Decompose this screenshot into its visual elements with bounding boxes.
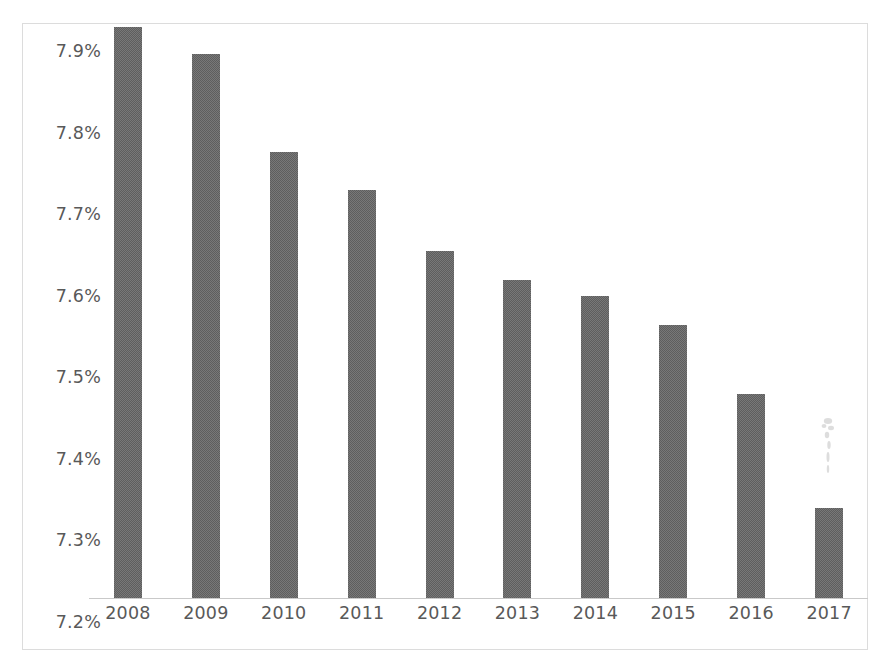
bar[interactable] xyxy=(192,54,220,598)
chart-frame: 7.9% 7.8% 7.7% 7.6% 7.5% 7.4% 7.3% 7.2% xyxy=(22,23,868,650)
chart-screenshot: 7.9% 7.8% 7.7% 7.6% 7.5% 7.4% 7.3% 7.2% xyxy=(0,0,888,669)
bar[interactable] xyxy=(270,152,298,598)
bar[interactable] xyxy=(581,296,609,598)
x-axis-labels: 2008 2009 2010 2011 2012 2013 2014 2015 … xyxy=(89,603,868,637)
x-axis-tick-label: 2009 xyxy=(183,603,228,623)
x-axis-tick-label: 2011 xyxy=(339,603,384,623)
bar[interactable] xyxy=(659,325,687,598)
x-axis-tick-label: 2010 xyxy=(261,603,306,623)
x-axis-tick-label: 2012 xyxy=(417,603,462,623)
x-axis-tick-label: 2014 xyxy=(573,603,618,623)
bar[interactable] xyxy=(815,508,843,598)
x-axis-tick-label: 2016 xyxy=(728,603,773,623)
plot-area xyxy=(89,28,868,599)
bar[interactable] xyxy=(426,251,454,598)
bar[interactable] xyxy=(503,280,531,598)
x-axis-tick-label: 2015 xyxy=(651,603,696,623)
x-axis-tick-label: 2008 xyxy=(105,603,150,623)
x-axis-line xyxy=(89,598,868,599)
bar-series xyxy=(89,28,868,599)
x-axis-tick-label: 2013 xyxy=(495,603,540,623)
bar[interactable] xyxy=(114,27,142,598)
bar[interactable] xyxy=(348,190,376,598)
x-axis-tick-label: 2017 xyxy=(806,603,851,623)
bar[interactable] xyxy=(737,394,765,598)
